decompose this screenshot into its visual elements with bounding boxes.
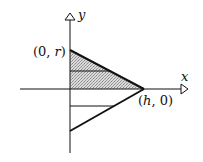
lower-edge xyxy=(70,89,144,131)
cone-diagram: y x (0, r) (h, 0) xyxy=(0,0,203,162)
y-axis-label: y xyxy=(77,7,86,22)
x-axis-label: x xyxy=(181,69,189,84)
right-vertex-label: (h, 0) xyxy=(138,93,173,108)
top-vertex-label: (0, r) xyxy=(33,44,66,59)
top-vertex-open: (0, xyxy=(33,44,55,59)
top-vertex-close: ) xyxy=(61,44,66,59)
x-axis-arrow-icon xyxy=(181,84,188,94)
right-vertex-var: h xyxy=(143,93,151,108)
right-vertex-close: , 0) xyxy=(151,93,173,108)
y-axis-arrow-icon xyxy=(65,13,75,20)
